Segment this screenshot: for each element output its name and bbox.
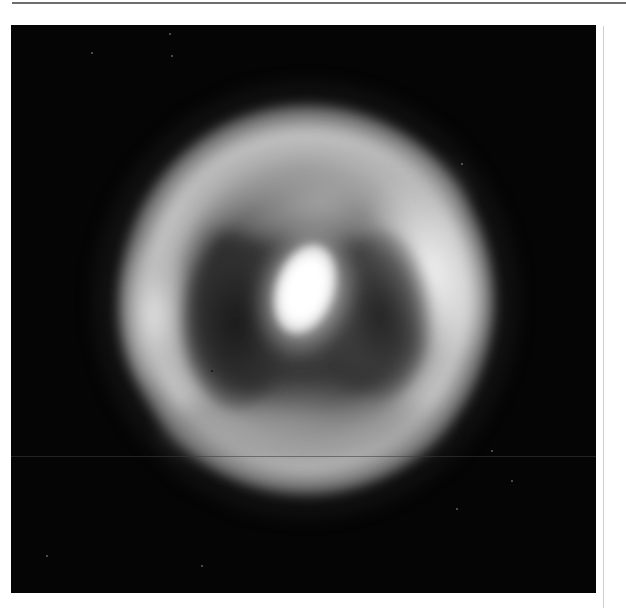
- astronomical-image: [11, 25, 596, 593]
- noise-speck: [46, 555, 48, 557]
- scan-line-artifact: [11, 456, 596, 457]
- bottom-arc: [161, 385, 451, 475]
- noise-speck: [169, 33, 171, 35]
- noise-speck: [511, 480, 513, 482]
- noise-speck: [201, 565, 203, 567]
- top-rule-divider: [12, 2, 626, 4]
- page: [0, 0, 626, 608]
- noise-speck: [443, 405, 445, 407]
- bright-ring: [119, 105, 494, 495]
- top-arc: [171, 135, 471, 245]
- noise-speck: [91, 52, 93, 54]
- outer-halo: [91, 80, 521, 520]
- noise-speck: [461, 163, 463, 165]
- noise-speck: [456, 508, 458, 510]
- core-glow: [238, 213, 375, 372]
- left-cavity: [181, 235, 291, 410]
- right-arc: [336, 161, 516, 380]
- noise-speck: [491, 450, 493, 452]
- left-lobe: [119, 240, 189, 390]
- noise-speck: [211, 370, 213, 372]
- right-cavity: [331, 230, 431, 400]
- central-core: [263, 236, 347, 341]
- side-rule-divider: [603, 26, 604, 608]
- noise-speck: [171, 55, 173, 57]
